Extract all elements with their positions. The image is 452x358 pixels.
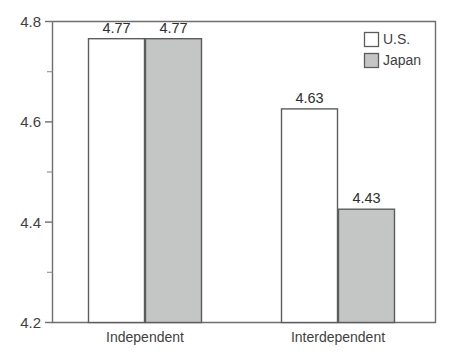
value-label-independent-japan: 4.77	[159, 20, 187, 36]
legend-swatch-japan	[365, 54, 379, 68]
legend-item-us[interactable]: U.S.	[365, 31, 411, 47]
bar-interdependent-japan[interactable]	[339, 209, 395, 322]
category-label-independent: Independent	[106, 329, 184, 345]
y-tick-label-4-4: 4.4	[20, 214, 41, 231]
value-label-interdependent-us: 4.63	[295, 90, 323, 106]
category-label-interdependent: Interdependent	[291, 329, 385, 345]
value-label-independent-us: 4.77	[102, 20, 130, 36]
bar-interdependent-us[interactable]	[282, 109, 338, 323]
bar-group-interdependent: 4.63 4.43	[282, 90, 395, 323]
chart-canvas: 4.8 4.6 4.4 4.2 4.77 4.77 4.63 4.43 Inde…	[0, 0, 452, 358]
bar-group-independent: 4.77 4.77	[89, 20, 202, 323]
value-label-interdependent-japan: 4.43	[352, 190, 380, 206]
legend-swatch-us	[365, 33, 379, 47]
bar-chart: 4.8 4.6 4.4 4.2 4.77 4.77 4.63 4.43 Inde…	[0, 0, 452, 358]
legend-label-us: U.S.	[383, 31, 410, 47]
legend: U.S. Japan	[365, 31, 422, 68]
bar-independent-us[interactable]	[89, 39, 145, 323]
x-axis-category-labels: Independent Interdependent	[106, 329, 385, 345]
y-tick-label-4-6: 4.6	[20, 113, 41, 130]
y-axis-minor-ticks	[47, 72, 53, 273]
y-axis-tick-labels: 4.8 4.6 4.4 4.2	[20, 13, 41, 331]
y-tick-label-4-8: 4.8	[20, 13, 41, 30]
legend-item-japan[interactable]: Japan	[365, 52, 422, 68]
y-tick-label-4-2: 4.2	[20, 314, 41, 331]
bar-independent-japan[interactable]	[146, 39, 202, 323]
legend-label-japan: Japan	[383, 52, 421, 68]
